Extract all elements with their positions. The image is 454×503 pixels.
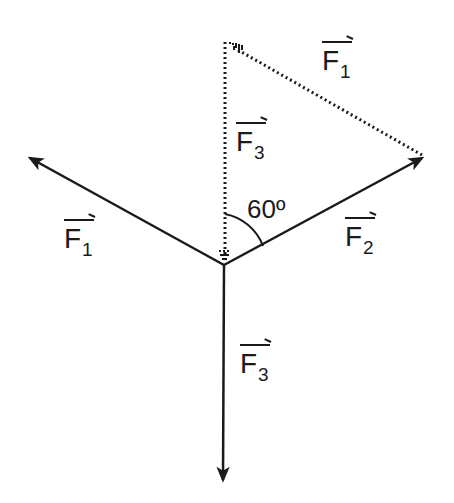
angle-label: 60º [247, 196, 285, 222]
label-f3: F3 [240, 350, 269, 378]
force-diagram: F1 F3 60º F2 F1 F3 [0, 0, 454, 503]
dotted-arrowhead-top-icon [229, 42, 243, 53]
vector-arrow-icon [64, 219, 94, 221]
vector-arrow-icon [236, 122, 266, 124]
dotted-arrowhead-icon [219, 250, 229, 260]
label-f2: F2 [345, 223, 374, 251]
vector-arrow-icon [240, 344, 270, 346]
vector-arrow-icon [345, 217, 375, 219]
vector-f1 [30, 158, 224, 265]
label-f1: F1 [64, 225, 93, 253]
label-f1-dotted: F1 [322, 47, 351, 75]
vector-f3 [223, 265, 224, 480]
label-f3-dotted: F3 [236, 128, 265, 156]
vector-arrow-icon [322, 41, 352, 43]
